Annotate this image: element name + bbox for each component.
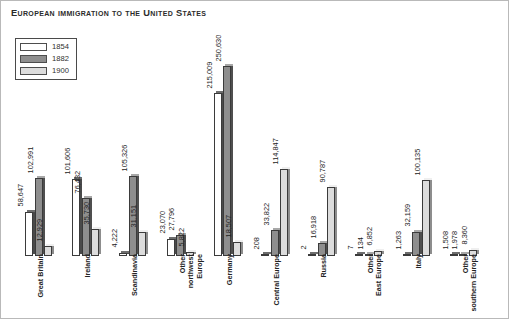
bar-1900: 35,730 [91,229,99,256]
bar-group: 215,009250,63018,507 [214,58,243,256]
bar-value-label: 208 [253,237,260,249]
chart-figure: European immigration to the United State… [0,0,509,319]
bar-1854: 208 [261,254,269,256]
bar-face [327,187,335,256]
bar-group: 101,60676,43235,730 [72,58,101,256]
bar-value-label: 134 [356,237,363,249]
bar-value-label: 250,630 [215,34,222,61]
bar-face [138,232,146,256]
bar-face [119,253,127,256]
bar-1854: 23,070 [167,239,175,256]
bar-top-shading [329,185,337,187]
category-label: Other northwest Europe [179,254,204,314]
category-label: Italy [415,254,423,314]
bar-value-label: 18,507 [224,214,231,237]
bar-value-label: 1,978 [451,231,458,250]
bar-top-shading [235,240,243,242]
bar-value-label: 76,432 [73,170,80,193]
bar-1854: 4,222 [119,253,127,256]
bar-value-label: 105,326 [120,144,127,171]
bar-value-label: 27,796 [168,207,175,230]
bar-top-shading [46,244,54,246]
bar-1854: 1,508 [450,254,458,256]
bar-side-shading [43,176,45,254]
bar-value-label: 102,991 [26,146,33,173]
category-label: Great Britain [37,254,45,314]
bar-1854: 2 [308,254,316,256]
bar-group: 1,26332,159100,135 [403,58,432,256]
bar-value-label: 8,360 [460,226,467,245]
category-label: Scandinavia [131,254,139,314]
bar-value-label: 6,852 [366,227,373,246]
bar-face [280,169,288,256]
category-label: Central Europe [273,254,281,314]
bar-value-label: 5,822 [177,228,184,247]
bar-value-label: 32,159 [404,204,411,227]
bar-1900: 31,151 [138,232,146,256]
bar-top-shading [93,227,101,229]
bar-value-label: 33,822 [262,203,269,226]
bar-face [35,178,43,256]
bar-value-label: 1,508 [441,231,448,250]
bar-1882: 102,991 [35,178,43,256]
bar-value-label: 2 [300,245,307,249]
bar-face [403,254,411,256]
bar-face [167,239,175,256]
bar-value-label: 4,222 [111,229,118,248]
bar-top-shading [84,196,92,198]
bar-group: 216,91890,787 [308,58,337,256]
bar-top-shading [140,230,148,232]
bar-1882: 33,822 [271,230,279,256]
bar-value-label: 114,847 [272,138,279,164]
bar-value-label: 100,135 [413,148,420,175]
bar-value-label: 7 [347,245,354,249]
bar-side-shading [146,230,148,254]
bar-face [412,232,420,256]
bar-value-label: 90,787 [319,160,326,183]
bar-group: 1,5081,9788,360 [450,58,479,256]
category-label: Other East Europe [367,254,384,314]
bar-side-shading [335,185,337,254]
bar-face [271,230,279,256]
bar-face [91,229,99,256]
bar-group: 71346,852 [355,58,384,256]
bar-1854: 58,647 [25,212,33,256]
bar-1882: 32,159 [412,232,420,256]
bar-top-shading [376,249,384,251]
bar-value-label: 12,929 [36,219,43,242]
bar-1900: 100,135 [422,180,430,256]
category-label: Russia [320,254,328,314]
bar-value-label: 23,070 [158,211,165,234]
bar-1900: 114,847 [280,169,288,256]
bar-face [422,180,430,256]
bar-value-label: 35,730 [83,201,90,224]
category-label: Ireland [84,254,92,314]
bar-face [355,254,363,256]
bar-group: 23,07027,7965,822 [167,58,196,256]
bar-top-shading [424,178,432,180]
bar-1854: 1,263 [403,254,411,256]
bar-value-label: 1,263 [394,231,401,250]
bar-top-shading [471,248,479,250]
bar-1854: 7 [355,254,363,256]
bar-side-shading [99,227,101,254]
bar-value-label: 16,918 [309,216,316,239]
bar-face [261,254,269,256]
bar-face [214,93,222,256]
bar-side-shading [288,167,290,254]
bar-1854: 215,009 [214,93,222,256]
bar-value-label: 58,647 [17,184,24,207]
bar-top-shading [131,174,139,176]
plot-area: 58,647102,99112,929Great Britain101,6067… [1,1,509,319]
bar-top-shading [282,167,290,169]
bar-value-label: 101,606 [64,147,71,174]
bar-face [308,254,316,256]
bar-top-shading [37,176,45,178]
bar-group: 20833,822114,847 [261,58,290,256]
bar-group: 4,222105,32631,151 [119,58,148,256]
bar-face [450,254,458,256]
category-label: Germany [226,254,234,314]
bar-top-shading [188,250,196,252]
bar-group: 58,647102,99112,929 [25,58,54,256]
bar-top-shading [225,64,233,66]
